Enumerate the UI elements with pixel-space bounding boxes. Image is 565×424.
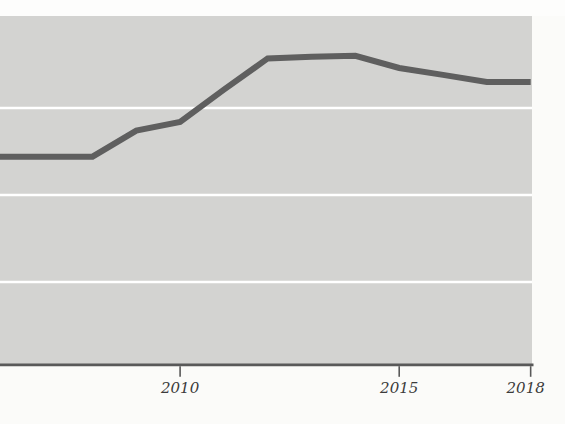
top-margin <box>0 0 565 16</box>
x-tick-label: 2015 <box>379 379 418 397</box>
plot-area <box>0 16 532 364</box>
x-tick-label: 2010 <box>160 379 200 397</box>
scanned-page: 201020152018 <box>0 0 565 424</box>
x-tick-label: 2018 <box>506 379 545 397</box>
line-chart: 201020152018 <box>0 0 565 424</box>
